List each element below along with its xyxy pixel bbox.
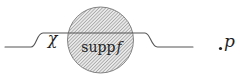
figure-canvas: χ suppf p [0,0,246,75]
supp-label: suppf [81,39,124,55]
point-label: p [224,31,235,51]
point-dot [219,47,222,50]
cutoff-function-diagram: χ suppf p [0,0,246,75]
supp-label-roman: supp [81,39,115,55]
chi-label: χ [47,29,59,48]
